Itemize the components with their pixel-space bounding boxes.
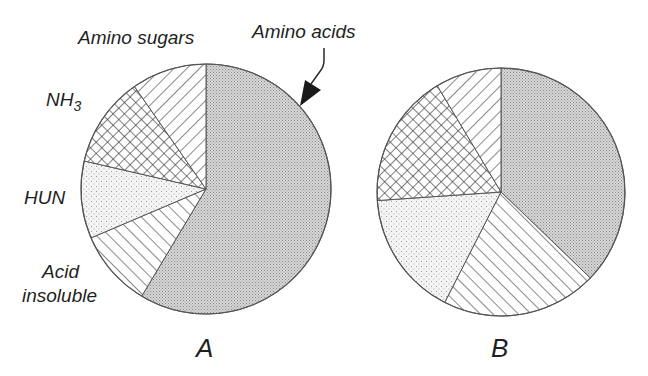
pie-chart-b [377,68,625,316]
label-amino-acids: Amino acids [252,22,356,42]
figure: Amino sugars Amino acids NH3 HUN Acid in… [0,0,648,376]
label-nh3-subscript: 3 [73,98,81,114]
pie-charts [0,0,648,376]
pie-b-title: B [491,335,508,361]
arrow-icon [300,48,324,106]
label-amino-sugars: Amino sugars [78,28,194,48]
label-nh3: NH3 [46,90,81,116]
label-hun: HUN [24,188,65,208]
label-acid-insoluble-line1: Acid [42,262,79,282]
label-acid-insoluble-line2: insoluble [22,286,97,306]
pie-chart-a [81,64,331,314]
label-nh3-base: NH [46,89,73,110]
pie-a-title: A [196,335,213,361]
